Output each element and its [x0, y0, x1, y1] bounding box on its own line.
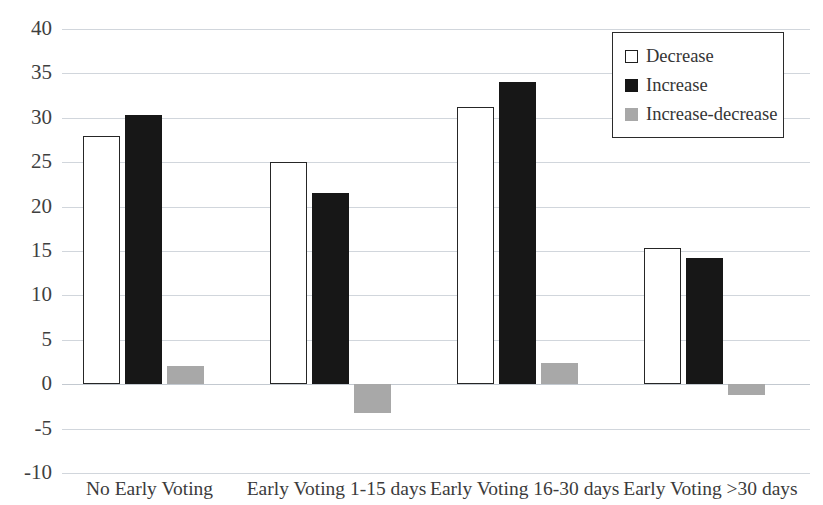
gridline	[62, 207, 810, 208]
bar-decrease	[644, 248, 681, 384]
x-axis-category-label: No Early Voting	[56, 478, 243, 500]
bar-incdec	[167, 366, 204, 384]
legend-item: Decrease	[625, 42, 783, 71]
gridline	[62, 251, 810, 252]
y-axis-tick-label: 25	[2, 149, 52, 174]
legend-item: Increase-decrease	[625, 100, 783, 129]
gridline	[62, 162, 810, 163]
gridline	[62, 473, 810, 474]
y-axis-tick-label: 10	[2, 282, 52, 307]
y-axis-tick-label: 15	[2, 238, 52, 263]
bar-increase	[499, 82, 536, 384]
y-axis-tick-label: 20	[2, 194, 52, 219]
y-axis-tick-label: 40	[2, 16, 52, 41]
legend-item-label: Decrease	[646, 46, 714, 67]
y-axis-tick-label: -5	[2, 416, 52, 441]
y-axis-tick-label: 30	[2, 105, 52, 130]
bar-incdec	[541, 363, 578, 384]
bar-increase	[686, 258, 723, 384]
x-axis-category-label: Early Voting 1-15 days	[243, 478, 430, 500]
white-square-icon	[625, 50, 638, 63]
bar-increase	[125, 115, 162, 384]
legend-item-label: Increase	[646, 75, 708, 96]
chart-legend: DecreaseIncreaseIncrease-decrease	[612, 32, 784, 138]
bar-chart: 4035302520151050-5-10 No Early VotingEar…	[0, 0, 823, 505]
gridline	[62, 29, 810, 30]
x-axis-category-label: Early Voting >30 days	[617, 478, 804, 500]
y-axis-tick-label: -10	[2, 460, 52, 485]
legend-item: Increase	[625, 71, 783, 100]
bar-decrease	[457, 107, 494, 384]
y-axis-tick-label: 35	[2, 60, 52, 85]
bar-incdec	[728, 384, 765, 395]
black-square-icon	[625, 79, 638, 92]
gray-square-icon	[625, 108, 638, 121]
x-axis-category-label: Early Voting 16-30 days	[430, 478, 617, 500]
gridline	[62, 429, 810, 430]
y-axis-tick-label: 0	[2, 371, 52, 396]
y-axis-tick-label: 5	[2, 327, 52, 352]
bar-decrease	[83, 136, 120, 385]
gridline	[62, 384, 810, 385]
bar-decrease	[270, 162, 307, 384]
bar-incdec	[354, 384, 391, 412]
legend-item-label: Increase-decrease	[646, 104, 777, 125]
bar-increase	[312, 193, 349, 384]
